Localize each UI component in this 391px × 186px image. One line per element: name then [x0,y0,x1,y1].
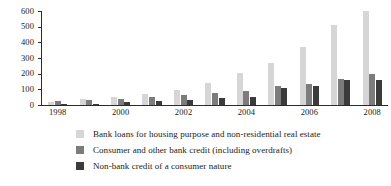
bar [149,97,155,105]
bar [338,79,344,105]
y-tick-mark [38,27,41,28]
y-tick-label: 200 [21,69,34,78]
bar-groups [42,0,388,105]
bar [61,104,67,105]
bar-group [142,0,161,105]
bar [313,86,319,105]
legend-swatch-icon [76,146,84,154]
bar [243,91,249,105]
y-tick-mark [38,105,41,106]
chart-legend: Bank loans for housing purpose and non-r… [76,126,386,174]
x-tick-label: 2000 [112,107,129,117]
plot-area: 0100200300400500600 19982000200220042006… [0,0,391,123]
bar-group [237,0,256,105]
bar [369,74,375,105]
y-tick-mark [38,74,41,75]
bar-group [268,0,287,105]
bar [344,80,350,105]
bar [48,102,54,105]
x-axis-tick-labels: 199820002002200420062008 [42,107,388,121]
bar [174,90,180,105]
y-tick-label: 300 [21,54,34,63]
bar [80,99,86,105]
bar [187,100,193,105]
bar-group [205,0,224,105]
bar [376,80,382,105]
bar [55,101,61,105]
bar [275,86,281,105]
y-tick-label: 600 [21,7,34,16]
bar [156,101,162,105]
bar-group [331,0,350,105]
x-tick-label: 1998 [49,107,66,117]
y-tick-label: 400 [21,38,34,47]
legend-item[interactable]: Bank loans for housing purpose and non-r… [76,126,386,142]
bar-group [111,0,130,105]
y-tick-mark [38,89,41,90]
bar [181,95,187,105]
bar-group [48,0,67,105]
bar [300,47,306,105]
bar [205,83,211,105]
bar-group [80,0,99,105]
legend-swatch-icon [76,162,84,170]
bar [118,99,124,105]
bar [111,97,117,105]
bar [142,94,148,105]
bar-chart: 0100200300400500600 19982000200220042006… [0,0,391,186]
x-tick-label: 2002 [175,107,192,117]
bar-group [300,0,319,105]
bar [237,73,243,105]
bar [306,84,312,105]
bar [124,102,130,105]
x-tick-label: 2004 [238,107,255,117]
bar [281,88,287,105]
legend-swatch-icon [76,130,84,138]
y-tick-mark [38,42,41,43]
legend-item[interactable]: Consumer and other bank credit (includin… [76,142,386,158]
y-tick-mark [38,11,41,12]
legend-label: Consumer and other bank credit (includin… [93,145,292,155]
x-tick-label: 2008 [364,107,381,117]
bar-group [174,0,193,105]
bar [250,97,256,105]
y-axis-tick-labels: 0100200300400500600 [0,0,38,123]
legend-label: Non-bank credit of a consumer nature [93,161,232,171]
legend-item[interactable]: Non-bank credit of a consumer nature [76,158,386,174]
bar [363,11,369,105]
x-tick-label: 2006 [301,107,318,117]
x-axis-line [41,105,388,106]
y-tick-label: 100 [21,85,34,94]
y-tick-label: 500 [21,22,34,31]
y-tick-mark [38,58,41,59]
bar [93,104,99,105]
bar [219,98,225,105]
bar-group [363,0,382,105]
bar [268,63,274,105]
bar [331,25,337,105]
bar [86,100,92,105]
legend-label: Bank loans for housing purpose and non-r… [93,129,321,139]
bar [212,93,218,105]
y-tick-label: 0 [30,101,34,110]
